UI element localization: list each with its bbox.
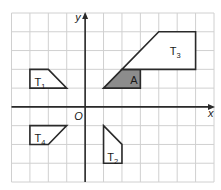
- coordinate-grid-diagram: x y O AT1T2T3T4: [0, 0, 221, 190]
- shape-t1: T1: [30, 69, 67, 90]
- x-axis-label: x: [207, 107, 214, 119]
- shapes: AT1T2T3T4: [30, 32, 196, 166]
- shape-a: A: [104, 69, 141, 88]
- shape-t4: T4: [30, 126, 67, 147]
- shape-a-label: A: [130, 74, 138, 86]
- origin-label: O: [74, 110, 83, 122]
- shape-t2: T2: [104, 126, 122, 166]
